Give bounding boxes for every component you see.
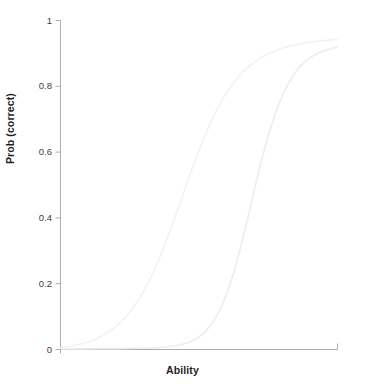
y-tick-label-1: 1 xyxy=(24,16,52,26)
icc-curve-item-2 xyxy=(61,47,337,349)
y-axis-title: Prob (correct) xyxy=(4,44,16,164)
y-tick-label-0.8: 0.8 xyxy=(24,81,52,91)
plot-area xyxy=(0,0,365,391)
x-axis-title: Ability xyxy=(0,364,365,376)
y-tick-label-0.2: 0.2 xyxy=(24,279,52,289)
y-axis-ticks xyxy=(56,21,61,350)
y-tick-label-0.4: 0.4 xyxy=(24,213,52,223)
icc-curve-item-1 xyxy=(61,40,337,348)
y-tick-label-0.6: 0.6 xyxy=(24,147,52,157)
chart-figure: 1 0.8 0.6 0.4 0.2 0 Prob (correct) Abili… xyxy=(0,0,365,391)
y-tick-label-0: 0 xyxy=(24,345,52,355)
